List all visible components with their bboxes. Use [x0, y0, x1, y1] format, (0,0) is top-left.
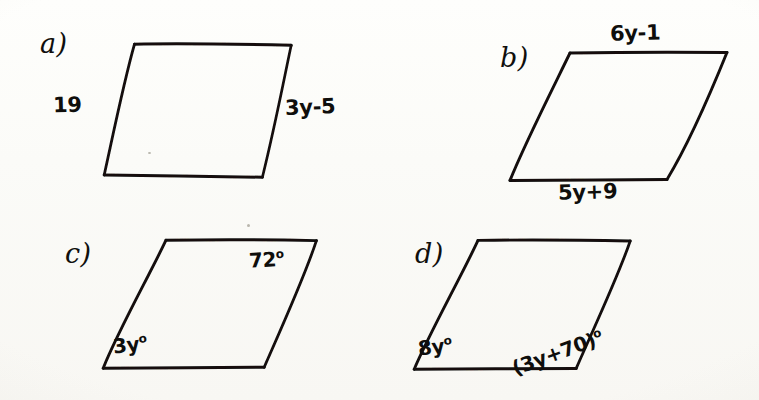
degree-symbol-icon: o [138, 331, 147, 346]
label-a-left-side: 19 [53, 95, 82, 117]
label-c-top-right-angle-value: 72 [248, 247, 277, 273]
label-d-bottom-left-angle-value: 8y [417, 334, 446, 361]
degree-symbol-icon: o [443, 333, 452, 348]
label-a-right-side: 3y-5 [285, 96, 336, 119]
worksheet-page: a) b) c) d) 19 3y-5 6y-1 5y+9 72o 3yo 8y… [0, 0, 759, 400]
label-d-bottom-left-angle: 8yo [417, 334, 453, 358]
label-c-top-right-angle: 72o [248, 248, 284, 271]
problem-letter-a: a) [40, 30, 68, 57]
problem-letter-c: c) [65, 240, 92, 267]
label-b-bottom-side: 5y+9 [558, 181, 618, 204]
problem-letter-d: d) [415, 240, 444, 267]
problem-letter-b: b) [500, 44, 529, 71]
parallelogram-a [104, 44, 291, 177]
degree-symbol-icon: o [275, 247, 284, 262]
label-c-bottom-left-angle-value: 3y [112, 332, 141, 359]
label-b-top-side: 6y-1 [610, 22, 661, 44]
parallelogram-b [510, 52, 727, 180]
label-c-bottom-left-angle: 3yo [112, 332, 148, 356]
